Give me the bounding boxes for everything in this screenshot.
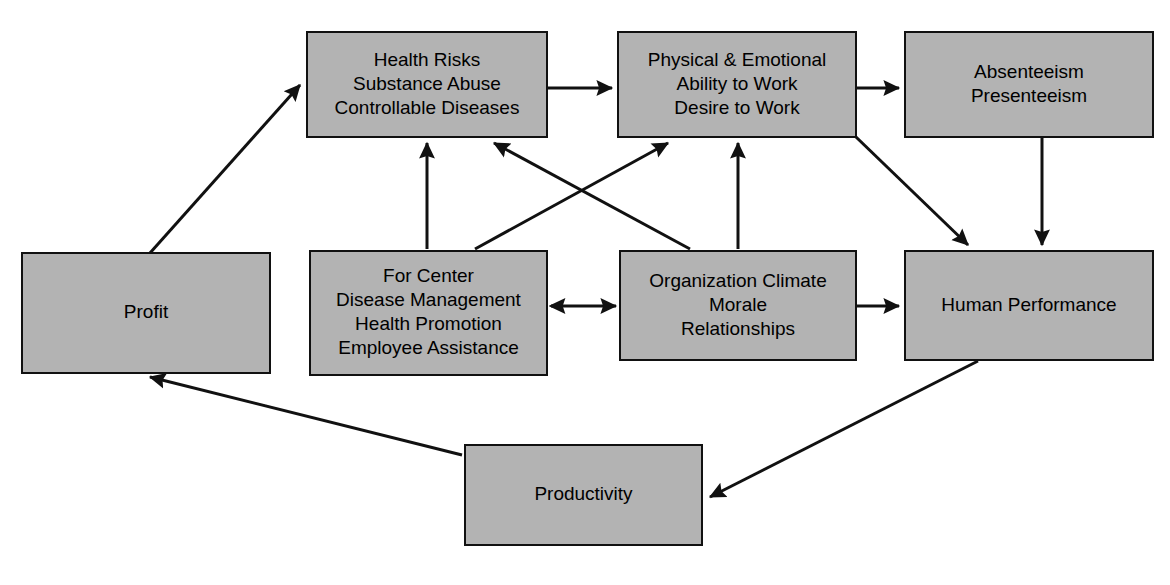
node-profit[interactable]: Profit	[22, 253, 270, 373]
node-health-risks[interactable]: Health RisksSubstance AbuseControllable …	[307, 32, 547, 137]
node-label-health-risks-line-1: Substance Abuse	[353, 73, 501, 94]
node-label-physical-and-emotional-line-2: Desire to Work	[674, 97, 800, 118]
node-label-for-center-programs-line-3: Employee Assistance	[338, 337, 519, 358]
node-label-absenteeism-presenteeism-line-1: Presenteeism	[971, 85, 1087, 106]
node-label-for-center-programs-line-2: Health Promotion	[355, 313, 502, 334]
edge-physical-emotional-to-human-performance	[856, 137, 968, 245]
node-for-center-programs[interactable]: For CenterDisease ManagementHealth Promo…	[310, 251, 547, 375]
node-label-physical-and-emotional-line-1: Ability to Work	[676, 73, 798, 94]
node-label-organization-climate-line-1: Morale	[709, 294, 767, 315]
node-label-physical-and-emotional-line-0: Physical & Emotional	[648, 49, 826, 70]
node-label-health-risks-line-0: Health Risks	[374, 49, 481, 70]
node-label-profit-line-0: Profit	[124, 301, 169, 322]
node-label-for-center-programs-line-0: For Center	[383, 265, 474, 286]
node-label-for-center-programs-line-1: Disease Management	[336, 289, 522, 310]
diagram-canvas: ProfitHealth RisksSubstance AbuseControl…	[0, 0, 1170, 585]
node-label-human-performance-line-0: Human Performance	[941, 294, 1116, 315]
edge-productivity-to-profit	[150, 377, 462, 455]
node-absenteeism-presenteeism[interactable]: AbsenteeismPresenteeism	[905, 32, 1153, 137]
node-label-health-risks-line-2: Controllable Diseases	[335, 97, 520, 118]
node-organization-climate[interactable]: Organization ClimateMoraleRelationships	[620, 251, 856, 360]
node-label-absenteeism-presenteeism-line-0: Absenteeism	[974, 61, 1084, 82]
node-physical-and-emotional[interactable]: Physical & EmotionalAbility to WorkDesir…	[618, 32, 856, 137]
node-label-productivity-line-0: Productivity	[534, 483, 633, 504]
node-label-organization-climate-line-0: Organization Climate	[649, 270, 826, 291]
edge-organization-climate-to-health-risks	[494, 143, 690, 249]
edge-for-center-to-physical-emotional	[475, 143, 668, 249]
node-human-performance[interactable]: Human Performance	[905, 251, 1153, 360]
diagram-root: ProfitHealth RisksSubstance AbuseControl…	[0, 0, 1170, 585]
node-productivity[interactable]: Productivity	[465, 445, 702, 545]
node-label-organization-climate-line-2: Relationships	[681, 318, 795, 339]
nodes-layer: ProfitHealth RisksSubstance AbuseControl…	[22, 32, 1153, 545]
edge-profit-to-health-risks	[150, 85, 300, 253]
edge-human-performance-to-productivity	[710, 361, 978, 497]
